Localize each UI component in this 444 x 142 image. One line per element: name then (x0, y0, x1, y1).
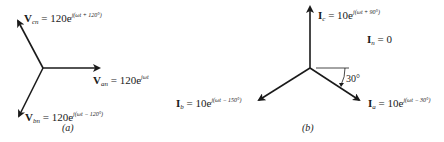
caption-b: (b) (302, 122, 314, 133)
ic-label: Ic = 10ej(ωt + 90°) (318, 6, 380, 25)
equals-sign: = (108, 74, 120, 86)
vcn-exponent: j(ωt + 120°) (72, 12, 102, 18)
ib-arrow (259, 68, 310, 100)
van-subscript: an (101, 80, 108, 88)
vcn-magnitude: 120 (50, 12, 67, 24)
equals-sign: = (40, 111, 52, 123)
van-exponent: jωt (141, 74, 149, 80)
equals-sign: = (39, 12, 51, 24)
ic-magnitude: 10 (337, 9, 348, 21)
caption-a: (a) (62, 122, 74, 133)
vcn-subscript: cn (32, 18, 39, 26)
in-label: In = 0 (367, 33, 392, 49)
vcn-label: Vcn = 120ej(ωt + 120°) (24, 9, 102, 28)
van-label: Van = 120ejωt (93, 71, 149, 90)
ib-exponent: j(ωt − 150°) (211, 97, 241, 103)
van-symbol: V (93, 74, 101, 86)
equals-sign: = (376, 97, 388, 109)
ia-exponent: j(ωt − 30°) (403, 97, 430, 103)
ia-magnitude: 10 (388, 97, 399, 109)
equals-sign: = (325, 9, 337, 21)
vbn-subscript: bn (33, 117, 40, 125)
angle-arc (341, 68, 345, 85)
in-value: 0 (387, 33, 393, 45)
vbn-symbol: V (25, 111, 33, 123)
angle-arc-arrowhead (339, 83, 344, 87)
van-magnitude: 120 (120, 74, 137, 86)
equals-sign: = (184, 97, 196, 109)
ia-label: Ia = 10ej(ωt − 30°) (368, 94, 430, 113)
angle-label: 30° (346, 73, 360, 85)
vbn-exponent: j(ωt − 120°) (73, 111, 103, 117)
ic-exponent: j(ωt + 90°) (353, 9, 380, 15)
figure-a-phasors (18, 21, 99, 116)
vcn-arrow (18, 21, 43, 68)
ib-magnitude: 10 (196, 97, 207, 109)
equals-sign: = (375, 33, 387, 45)
vcn-symbol: V (24, 12, 32, 24)
ib-label: Ib = 10ej(ωt − 150°) (176, 94, 241, 113)
